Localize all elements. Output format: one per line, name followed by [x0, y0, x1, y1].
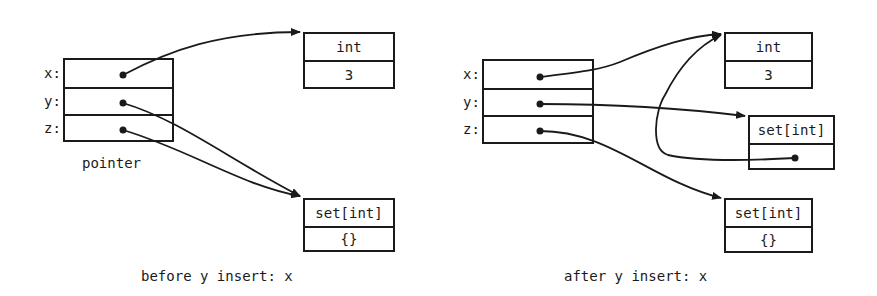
var-label-x: x: — [44, 66, 61, 80]
var-label-z: z: — [44, 121, 61, 135]
set-type-cell: set[int] — [726, 200, 811, 228]
caption-before: before y insert: x — [141, 268, 293, 284]
pointer-row-x — [65, 60, 172, 89]
caption-after: after y insert: x — [564, 268, 707, 284]
new-set-value-cell — [750, 145, 833, 168]
pointer-box — [63, 58, 174, 142]
int-object: int 3 — [724, 32, 813, 89]
set-object: set[int] {} — [724, 198, 813, 253]
set-value-cell: {} — [726, 228, 811, 251]
int-value-cell: 3 — [305, 62, 393, 87]
var-label-y: y: — [463, 95, 480, 109]
pointer-row-y — [484, 90, 592, 117]
pointer-row-z — [65, 116, 172, 140]
int-type-cell: int — [726, 34, 811, 62]
pointer-row-x — [484, 61, 592, 90]
pointer-row-z — [484, 117, 592, 142]
pointer-label: pointer — [82, 156, 141, 170]
pointer-row-y — [65, 89, 172, 116]
new-set-type-cell: set[int] — [750, 117, 833, 145]
var-label-z: z: — [463, 122, 480, 136]
set-type-cell: set[int] — [305, 200, 393, 228]
set-value-cell: {} — [305, 228, 393, 250]
var-label-x: x: — [463, 67, 480, 81]
int-value-cell: 3 — [726, 62, 811, 87]
new-set-object: set[int] — [748, 115, 835, 170]
set-object: set[int] {} — [303, 198, 395, 252]
pointer-box — [482, 59, 594, 144]
var-label-y: y: — [44, 94, 61, 108]
int-object: int 3 — [303, 32, 395, 89]
int-type-cell: int — [305, 34, 393, 62]
